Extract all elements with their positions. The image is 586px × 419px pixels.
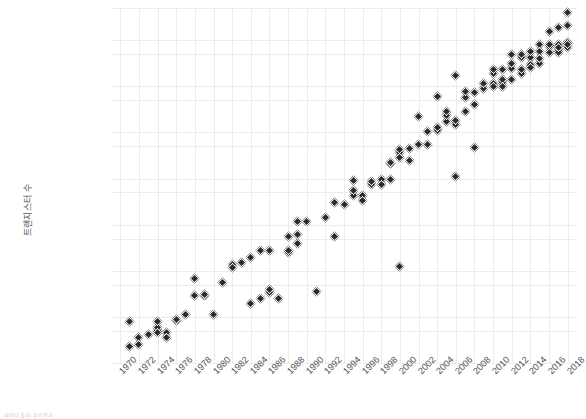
data-point — [395, 261, 405, 271]
data-point — [404, 155, 414, 165]
gridline-vertical — [307, 8, 308, 363]
data-point — [237, 258, 247, 268]
data-point — [134, 340, 144, 350]
gridline-vertical — [363, 8, 364, 363]
data-point — [320, 213, 330, 223]
data-point — [460, 106, 470, 116]
gridline-vertical — [269, 8, 270, 363]
data-point — [470, 143, 480, 153]
chart-footnote: 데이터 출처: 위키백과 — [4, 411, 53, 418]
data-point — [358, 196, 368, 206]
y-axis-tick-labels: 50,000,000,00010,000,000,0005,000,000,00… — [0, 0, 106, 419]
gridline-vertical — [493, 8, 494, 363]
data-point — [451, 71, 461, 81]
data-point — [162, 333, 172, 343]
gridline-vertical — [251, 8, 252, 363]
data-point — [348, 175, 358, 185]
gridline-vertical — [176, 8, 177, 363]
data-point — [283, 232, 293, 242]
gridline-vertical — [288, 8, 289, 363]
data-point — [255, 246, 265, 256]
data-point — [181, 310, 191, 320]
data-point — [274, 294, 284, 304]
data-point — [190, 274, 200, 284]
data-point — [507, 75, 517, 85]
gridline-vertical — [549, 8, 550, 363]
gridline-vertical — [456, 8, 457, 363]
data-point — [311, 287, 321, 297]
data-point — [404, 143, 414, 153]
data-point — [423, 140, 433, 150]
gridline-vertical — [400, 8, 401, 363]
data-point — [386, 158, 396, 168]
data-point — [553, 22, 563, 32]
data-point — [264, 246, 274, 256]
data-point — [125, 316, 135, 326]
data-point — [246, 298, 256, 308]
gridline-vertical — [158, 8, 159, 363]
data-point — [470, 88, 480, 98]
plot-area — [111, 8, 577, 363]
gridline-vertical — [195, 8, 196, 363]
gridline-horizontal — [111, 363, 577, 364]
gridline-vertical — [437, 8, 438, 363]
data-point — [414, 112, 424, 122]
data-point — [563, 20, 573, 30]
data-point — [218, 278, 228, 288]
data-point — [544, 27, 554, 37]
data-point — [292, 239, 302, 249]
data-point — [330, 197, 340, 207]
data-point — [255, 294, 265, 304]
gridline-vertical — [120, 8, 121, 363]
data-point — [199, 290, 209, 300]
data-point — [339, 199, 349, 209]
gridline-vertical — [568, 8, 569, 363]
gridline-vertical — [325, 8, 326, 363]
gridline-vertical — [139, 8, 140, 363]
data-point — [386, 175, 396, 185]
data-point — [423, 127, 433, 137]
gridline-vertical — [474, 8, 475, 363]
gridline-vertical — [419, 8, 420, 363]
data-point — [246, 253, 256, 263]
data-point — [451, 172, 461, 182]
data-point — [330, 232, 340, 242]
data-point — [190, 291, 200, 301]
data-point — [395, 153, 405, 163]
gridline-vertical — [344, 8, 345, 363]
data-point — [497, 65, 507, 75]
gridline-vertical — [232, 8, 233, 363]
data-point — [563, 8, 573, 18]
